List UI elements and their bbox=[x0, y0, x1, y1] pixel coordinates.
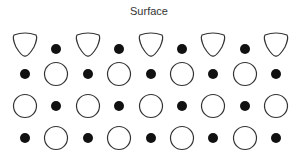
small-ion bbox=[146, 133, 156, 143]
small-ion bbox=[83, 69, 93, 79]
large-ion bbox=[45, 127, 68, 150]
small-ion bbox=[271, 69, 281, 79]
large-ion bbox=[265, 95, 288, 118]
large-ion bbox=[234, 63, 257, 86]
large-ion bbox=[140, 95, 163, 118]
distorted-surface-ion bbox=[76, 33, 99, 56]
large-ion bbox=[108, 63, 131, 86]
small-ion bbox=[240, 44, 250, 54]
small-ion bbox=[114, 101, 124, 111]
distorted-surface-ion bbox=[139, 33, 162, 56]
small-ion bbox=[271, 133, 281, 143]
distorted-surface-ion bbox=[264, 33, 287, 56]
small-ion bbox=[51, 44, 61, 54]
small-ion bbox=[83, 133, 93, 143]
large-ion bbox=[14, 95, 37, 118]
small-ion bbox=[20, 69, 30, 79]
small-ion bbox=[146, 69, 156, 79]
large-ion bbox=[234, 127, 257, 150]
small-ion bbox=[20, 133, 30, 143]
small-ion bbox=[114, 44, 124, 54]
large-ion bbox=[77, 95, 100, 118]
large-ion bbox=[45, 63, 68, 86]
distorted-surface-ion bbox=[13, 33, 36, 56]
distorted-surface-ion bbox=[201, 33, 224, 56]
small-ion bbox=[51, 101, 61, 111]
large-ion bbox=[108, 127, 131, 150]
large-ion bbox=[171, 127, 194, 150]
large-ion bbox=[202, 95, 225, 118]
large-ion bbox=[171, 63, 194, 86]
small-ion bbox=[177, 101, 187, 111]
lattice-diagram bbox=[0, 0, 298, 162]
small-ion bbox=[177, 44, 187, 54]
small-ion bbox=[208, 69, 218, 79]
small-ion bbox=[208, 133, 218, 143]
small-ion bbox=[240, 101, 250, 111]
